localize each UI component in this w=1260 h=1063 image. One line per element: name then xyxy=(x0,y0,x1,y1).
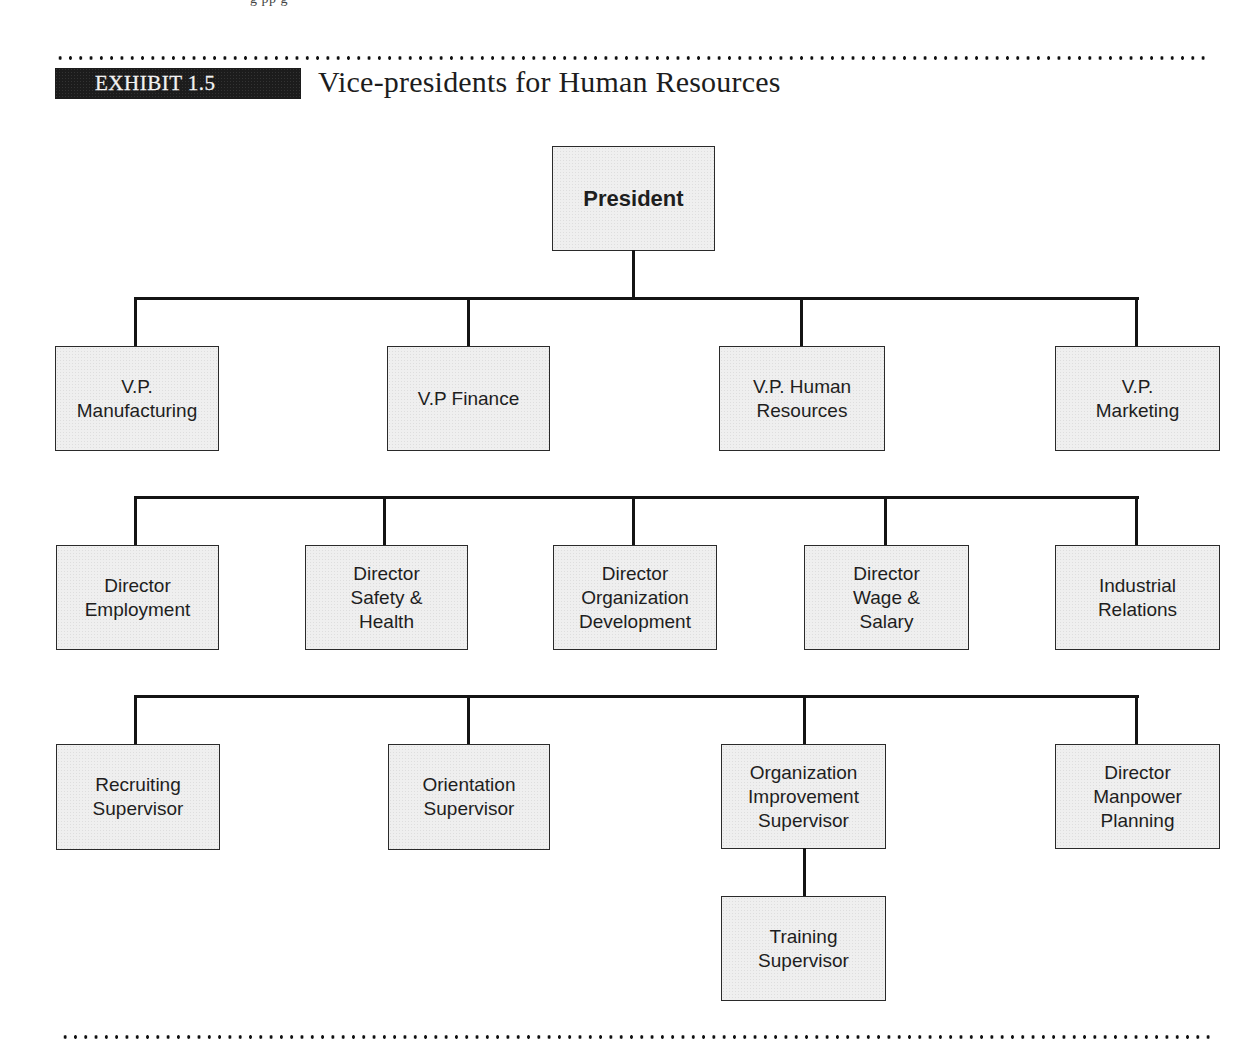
node-training-supervisor: Training Supervisor xyxy=(721,896,886,1001)
node-director-safety-health: Director Safety & Health xyxy=(305,545,468,650)
node-industrial-relations: Industrial Relations xyxy=(1055,545,1220,650)
node-vp-human-resources: V.P. Human Resources xyxy=(719,346,885,451)
node-recruiting-supervisor: Recruiting Supervisor xyxy=(56,744,220,850)
connector-level1-bus xyxy=(134,297,1139,300)
connector-vp-manufacturing xyxy=(134,297,137,347)
node-director-employment: Director Employment xyxy=(56,545,219,650)
bottom-dotted-rule xyxy=(60,1035,1215,1039)
connector-recruiting-supervisor xyxy=(134,695,137,745)
connector-industrial-relations xyxy=(1135,496,1138,546)
connector-orientation-supervisor xyxy=(467,695,470,745)
node-director-manpower-planning: Director Manpower Planning xyxy=(1055,744,1220,849)
node-vp-manufacturing: V.P. Manufacturing xyxy=(55,346,219,451)
connector-level2-bus xyxy=(134,496,1139,499)
connector-training-supervisor xyxy=(803,848,806,897)
node-president: President xyxy=(552,146,715,251)
connector-vp-marketing xyxy=(1135,297,1138,347)
node-orientation-supervisor: Orientation Supervisor xyxy=(388,744,550,850)
node-director-organization-development: Director Organization Development xyxy=(553,545,717,650)
connector-director-employment xyxy=(134,496,137,546)
org-chart: President V.P. Manufacturing V.P Finance… xyxy=(0,0,1260,1063)
node-vp-marketing: V.P. Marketing xyxy=(1055,346,1220,451)
connector-level3-bus xyxy=(134,695,1139,698)
connector-director-wage-salary xyxy=(884,496,887,546)
connector-organization-improvement-supervisor xyxy=(803,695,806,745)
node-vp-finance: V.P Finance xyxy=(387,346,550,451)
connector-director-safety-health xyxy=(383,496,386,546)
connector-vp-human-resources xyxy=(800,297,803,347)
connector-vp-finance xyxy=(467,297,470,347)
connector-director-manpower-planning xyxy=(1135,695,1138,745)
node-organization-improvement-supervisor: Organization Improvement Supervisor xyxy=(721,744,886,849)
connector-president-down xyxy=(632,250,635,300)
node-director-wage-salary: Director Wage & Salary xyxy=(804,545,969,650)
connector-director-organization-development xyxy=(632,496,635,546)
